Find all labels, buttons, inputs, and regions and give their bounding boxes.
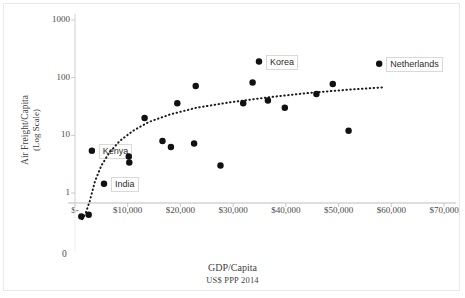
data-point (282, 105, 288, 111)
data-point (168, 144, 174, 150)
data-point (249, 79, 255, 85)
data-point (126, 153, 132, 159)
data-point (78, 213, 84, 219)
data-point (217, 162, 223, 168)
trend-line (82, 87, 383, 219)
data-point (192, 83, 198, 89)
data-point (376, 60, 382, 66)
data-point (101, 180, 107, 186)
data-point (191, 140, 197, 146)
data-point (330, 81, 336, 87)
data-point (141, 115, 147, 121)
data-point (89, 148, 95, 154)
plot-area (0, 0, 465, 298)
data-point (174, 100, 180, 106)
data-point (313, 91, 319, 97)
data-point (256, 58, 262, 64)
data-point (265, 97, 271, 103)
data-point (240, 100, 246, 106)
air-freight-vs-gdp-scatter-chart: Air Freight/Capita (Log Scale) GDP/Capit… (0, 0, 465, 298)
data-point (85, 211, 91, 217)
data-point (126, 159, 132, 165)
data-point (159, 138, 165, 144)
data-point (345, 128, 351, 134)
